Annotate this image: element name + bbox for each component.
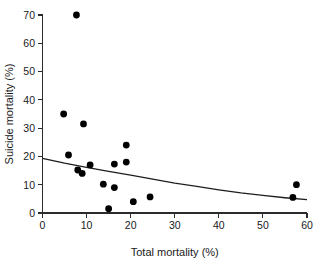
- y-tick-label: 40: [23, 94, 35, 106]
- x-tick-label: 40: [213, 219, 225, 231]
- y-tick-label: 20: [23, 150, 35, 162]
- data-point-marker: [65, 152, 72, 159]
- x-tick-label: 50: [257, 219, 269, 231]
- y-tick-label: 30: [23, 122, 35, 134]
- data-point-marker: [100, 181, 107, 188]
- y-tick-label: 10: [23, 179, 35, 191]
- x-tick-label: 0: [40, 219, 46, 231]
- data-point-marker: [147, 193, 154, 200]
- y-axis-title: Suicide mortality (%): [3, 64, 15, 165]
- data-point-marker: [60, 111, 67, 118]
- x-tick-label: 20: [125, 219, 137, 231]
- scatter-plot-figure: 0102030405060700102030405060Total mortal…: [0, 0, 328, 263]
- data-point-marker: [111, 161, 118, 168]
- data-point-marker: [79, 170, 86, 177]
- y-tick-label: 60: [23, 37, 35, 49]
- data-point-marker: [130, 198, 137, 205]
- chart-canvas: 0102030405060700102030405060Total mortal…: [0, 0, 328, 263]
- data-point-marker: [73, 12, 80, 19]
- axis-labels-group: 0102030405060700102030405060Total mortal…: [3, 9, 313, 258]
- data-points-group: [60, 12, 300, 213]
- data-point-marker: [87, 162, 94, 169]
- data-point-marker: [105, 205, 112, 212]
- axes-group: [38, 15, 307, 218]
- fit-curve-path: [43, 158, 308, 199]
- fit-curve-group: [43, 158, 308, 199]
- y-tick-label: 70: [23, 9, 35, 21]
- data-point-marker: [80, 121, 87, 128]
- data-point-marker: [123, 142, 130, 149]
- x-tick-label: 10: [81, 219, 93, 231]
- data-point-marker: [111, 184, 118, 191]
- x-axis-title: Total mortality (%): [131, 246, 219, 258]
- x-tick-label: 30: [169, 219, 181, 231]
- x-tick-label: 60: [301, 219, 313, 231]
- data-point-marker: [123, 159, 130, 166]
- data-point-marker: [293, 181, 300, 188]
- data-point-marker: [289, 194, 296, 201]
- y-tick-label: 50: [23, 65, 35, 77]
- y-tick-label: 0: [29, 207, 35, 219]
